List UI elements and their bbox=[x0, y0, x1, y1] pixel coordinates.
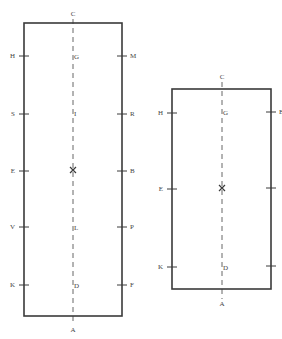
left_box-right-tick-label: P bbox=[130, 223, 134, 231]
left_box-center-label: D bbox=[74, 282, 79, 290]
right_box-left-tick-label: E bbox=[159, 185, 163, 193]
left_box-right-tick-label: B bbox=[130, 167, 135, 175]
right_box-center-label: G bbox=[223, 109, 228, 117]
left_box-right-tick-label: R bbox=[130, 110, 135, 118]
left_box-left-tick-label: E bbox=[11, 167, 15, 175]
left_box-left-tick-label: K bbox=[10, 281, 15, 289]
left_box-center-label: G bbox=[74, 53, 79, 61]
left_box-label-top: C bbox=[71, 10, 76, 18]
right_box-label-bottom: A bbox=[219, 300, 224, 308]
left_box-left-tick-label: H bbox=[10, 52, 15, 60]
left_box-label-bottom: A bbox=[70, 326, 75, 334]
right_box-left-tick-label: H bbox=[158, 109, 163, 117]
pattern-diagram: CAGILDHSEVKMRBPFCAGDHEKB bbox=[0, 0, 282, 339]
left_box-center-label: I bbox=[74, 110, 77, 118]
left_box-right-tick-label: M bbox=[130, 52, 137, 60]
left_box-left-tick-label: S bbox=[11, 110, 15, 118]
left_box-left-tick-label: V bbox=[10, 223, 15, 231]
right_box-left-tick-label: K bbox=[158, 263, 163, 271]
right_box-center-label: D bbox=[223, 264, 228, 272]
right_box-label-top: C bbox=[220, 73, 225, 81]
right_box-right-tick-label: B bbox=[279, 108, 282, 116]
left_box-right-tick-label: F bbox=[130, 281, 134, 289]
left_box-center-label: L bbox=[74, 224, 78, 232]
